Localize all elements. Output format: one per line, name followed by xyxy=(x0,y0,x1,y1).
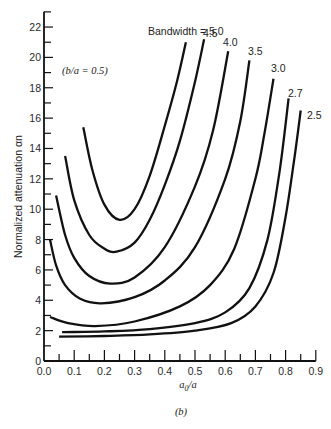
y-tick-label: 18 xyxy=(29,82,41,94)
label-bandwidth-2-5: 2.5 xyxy=(307,109,322,121)
x-axis-label: a0/a xyxy=(179,379,196,393)
figure-caption: (b) xyxy=(175,406,188,418)
x-tick-label: 0.7 xyxy=(248,365,263,377)
x-tick-label: 0.5 xyxy=(188,365,203,377)
y-axis-label: Normalized attenuation αn xyxy=(12,135,24,258)
x-tick-label: 0.8 xyxy=(278,365,293,377)
y-tick-label: 8 xyxy=(35,234,41,246)
y-tick-label: 20 xyxy=(29,51,41,63)
y-tick-label: 10 xyxy=(29,203,41,215)
label-bandwidth-4-0: 4.0 xyxy=(223,36,238,48)
y-tick-label: 2 xyxy=(35,325,41,337)
y-tick-label: 16 xyxy=(29,112,41,124)
label-bandwidth-2-7: 2.7 xyxy=(288,87,303,99)
label-bandwidth-3-5: 3.5 xyxy=(248,45,263,57)
curve-bandwidth-4-0 xyxy=(56,51,228,283)
y-tick-label: 4 xyxy=(35,294,41,306)
x-tick-label: 0.6 xyxy=(218,365,233,377)
curve-bandwidth-3-0 xyxy=(50,79,274,326)
attenuation-chart: 02468101214161820220.00.10.20.30.40.50.6… xyxy=(0,0,331,429)
y-tick-label: 12 xyxy=(29,173,41,185)
x-tick-label: 0.3 xyxy=(127,365,142,377)
label-bandwidth-4-5: 4.5 xyxy=(203,27,218,39)
x-tick-label: 0.9 xyxy=(308,365,323,377)
y-tick-label: 14 xyxy=(29,142,41,154)
label-bandwidth-3-0: 3.0 xyxy=(271,62,286,74)
x-tick-label: 0.4 xyxy=(157,365,172,377)
curves xyxy=(50,39,301,337)
ratio-annotation: (b/a = 0.5) xyxy=(62,65,108,77)
y-tick-label: 22 xyxy=(29,21,41,33)
x-tick-label: 0.2 xyxy=(97,365,112,377)
x-tick-label: 0.0 xyxy=(37,365,52,377)
curve-bandwidth-2-7 xyxy=(62,98,289,332)
x-tick-label: 0.1 xyxy=(67,365,82,377)
y-tick-label: 6 xyxy=(35,264,41,276)
